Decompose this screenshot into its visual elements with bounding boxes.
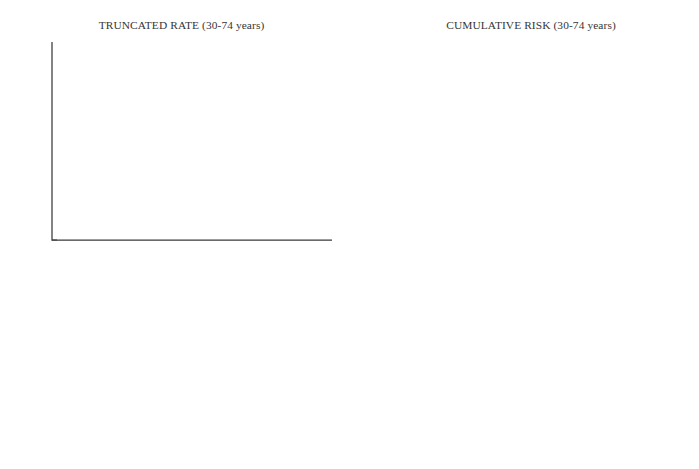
plot-truncated-rate	[0, 0, 345, 290]
panel-cumulative-risk: CUMULATIVE RISK (30-74 years)	[345, 0, 699, 290]
legend	[0, 360, 699, 469]
panel-truncated-rate: TRUNCATED RATE (30-74 years)	[0, 0, 345, 290]
figure-root: TRUNCATED RATE (30-74 years) CUMULATIVE …	[0, 0, 699, 469]
axis-lines	[52, 42, 332, 240]
plot-cumulative-risk	[345, 0, 699, 290]
